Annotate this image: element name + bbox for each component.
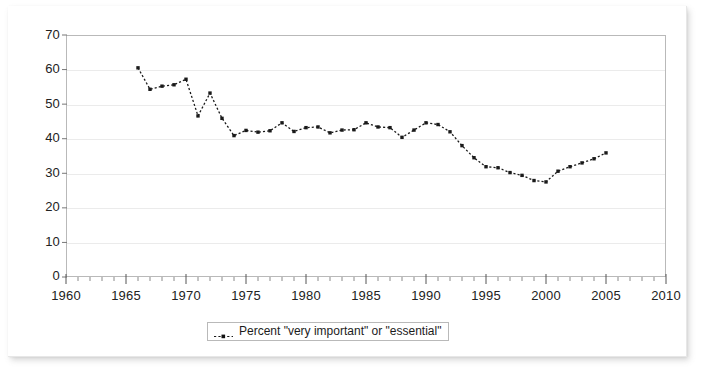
y-axis-label-10: 10	[16, 234, 60, 249]
y-axis-label-50: 50	[16, 96, 60, 111]
gridline-30	[67, 174, 665, 175]
x-axis-label-1990: 1990	[400, 288, 452, 303]
x-axis-label-2000: 2000	[520, 288, 572, 303]
x-axis-label-1965: 1965	[100, 288, 152, 303]
legend-label: Percent "very important" or "essential"	[239, 325, 441, 338]
y-axis-label-60: 60	[16, 61, 60, 76]
y-axis-label-20: 20	[16, 199, 60, 214]
plot-area	[66, 35, 666, 277]
gridline-60	[67, 70, 665, 71]
gridline-50	[67, 105, 665, 106]
x-axis-label-1975: 1975	[220, 288, 272, 303]
y-axis-label-30: 30	[16, 165, 60, 180]
chart-legend: Percent "very important" or "essential"	[207, 322, 449, 341]
x-axis-label-1980: 1980	[280, 288, 332, 303]
x-axis-label-2005: 2005	[580, 288, 632, 303]
gridline-40	[67, 139, 665, 140]
gridline-10	[67, 243, 665, 244]
x-axis-label-1960: 1960	[40, 288, 92, 303]
gridline-20	[67, 208, 665, 209]
y-axis-label-70: 70	[16, 27, 60, 42]
x-axis-label-1985: 1985	[340, 288, 392, 303]
dotted-line-square-marker-icon	[214, 327, 233, 336]
x-axis-label-2010: 2010	[640, 288, 692, 303]
y-axis-label-40: 40	[16, 130, 60, 145]
x-axis-label-1995: 1995	[460, 288, 512, 303]
x-axis-label-1970: 1970	[160, 288, 212, 303]
y-axis-label-0: 0	[16, 268, 60, 283]
